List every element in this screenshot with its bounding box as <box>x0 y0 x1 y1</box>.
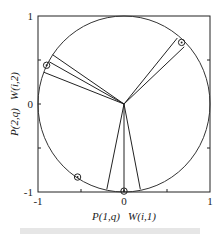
y-axis-label: P(2,q) W(i,2) <box>8 72 21 137</box>
weight-vector-line <box>44 72 124 104</box>
weight-vector-line <box>49 62 124 104</box>
weight-vector-line <box>53 55 124 104</box>
y-tick-neg1: -1 <box>24 186 33 198</box>
weight-vector-line <box>124 47 184 104</box>
prototype-point-dot <box>123 190 125 192</box>
weight-vector-line <box>124 38 177 104</box>
weight-vectors <box>44 38 184 192</box>
prototype-point-dot <box>77 176 79 178</box>
chart-canvas: 1 0 -1 -1 0 1 P(1,q) W(i,1) P(2,q) W(i,2… <box>0 0 223 234</box>
y-tick-1: 1 <box>28 10 34 22</box>
weight-vector-line <box>124 104 140 189</box>
figure-caption-cropped <box>20 228 200 234</box>
x-axis-label: P(1,q) W(i,1) <box>91 210 156 223</box>
prototype-point-dot <box>181 41 183 43</box>
y-tick-0: 0 <box>28 98 34 110</box>
prototype-point-dot <box>46 64 48 66</box>
x-tick-0: 0 <box>121 195 127 207</box>
x-tick-neg1: -1 <box>33 195 42 207</box>
weight-vector-line <box>107 104 124 189</box>
x-tick-1: 1 <box>207 195 213 207</box>
